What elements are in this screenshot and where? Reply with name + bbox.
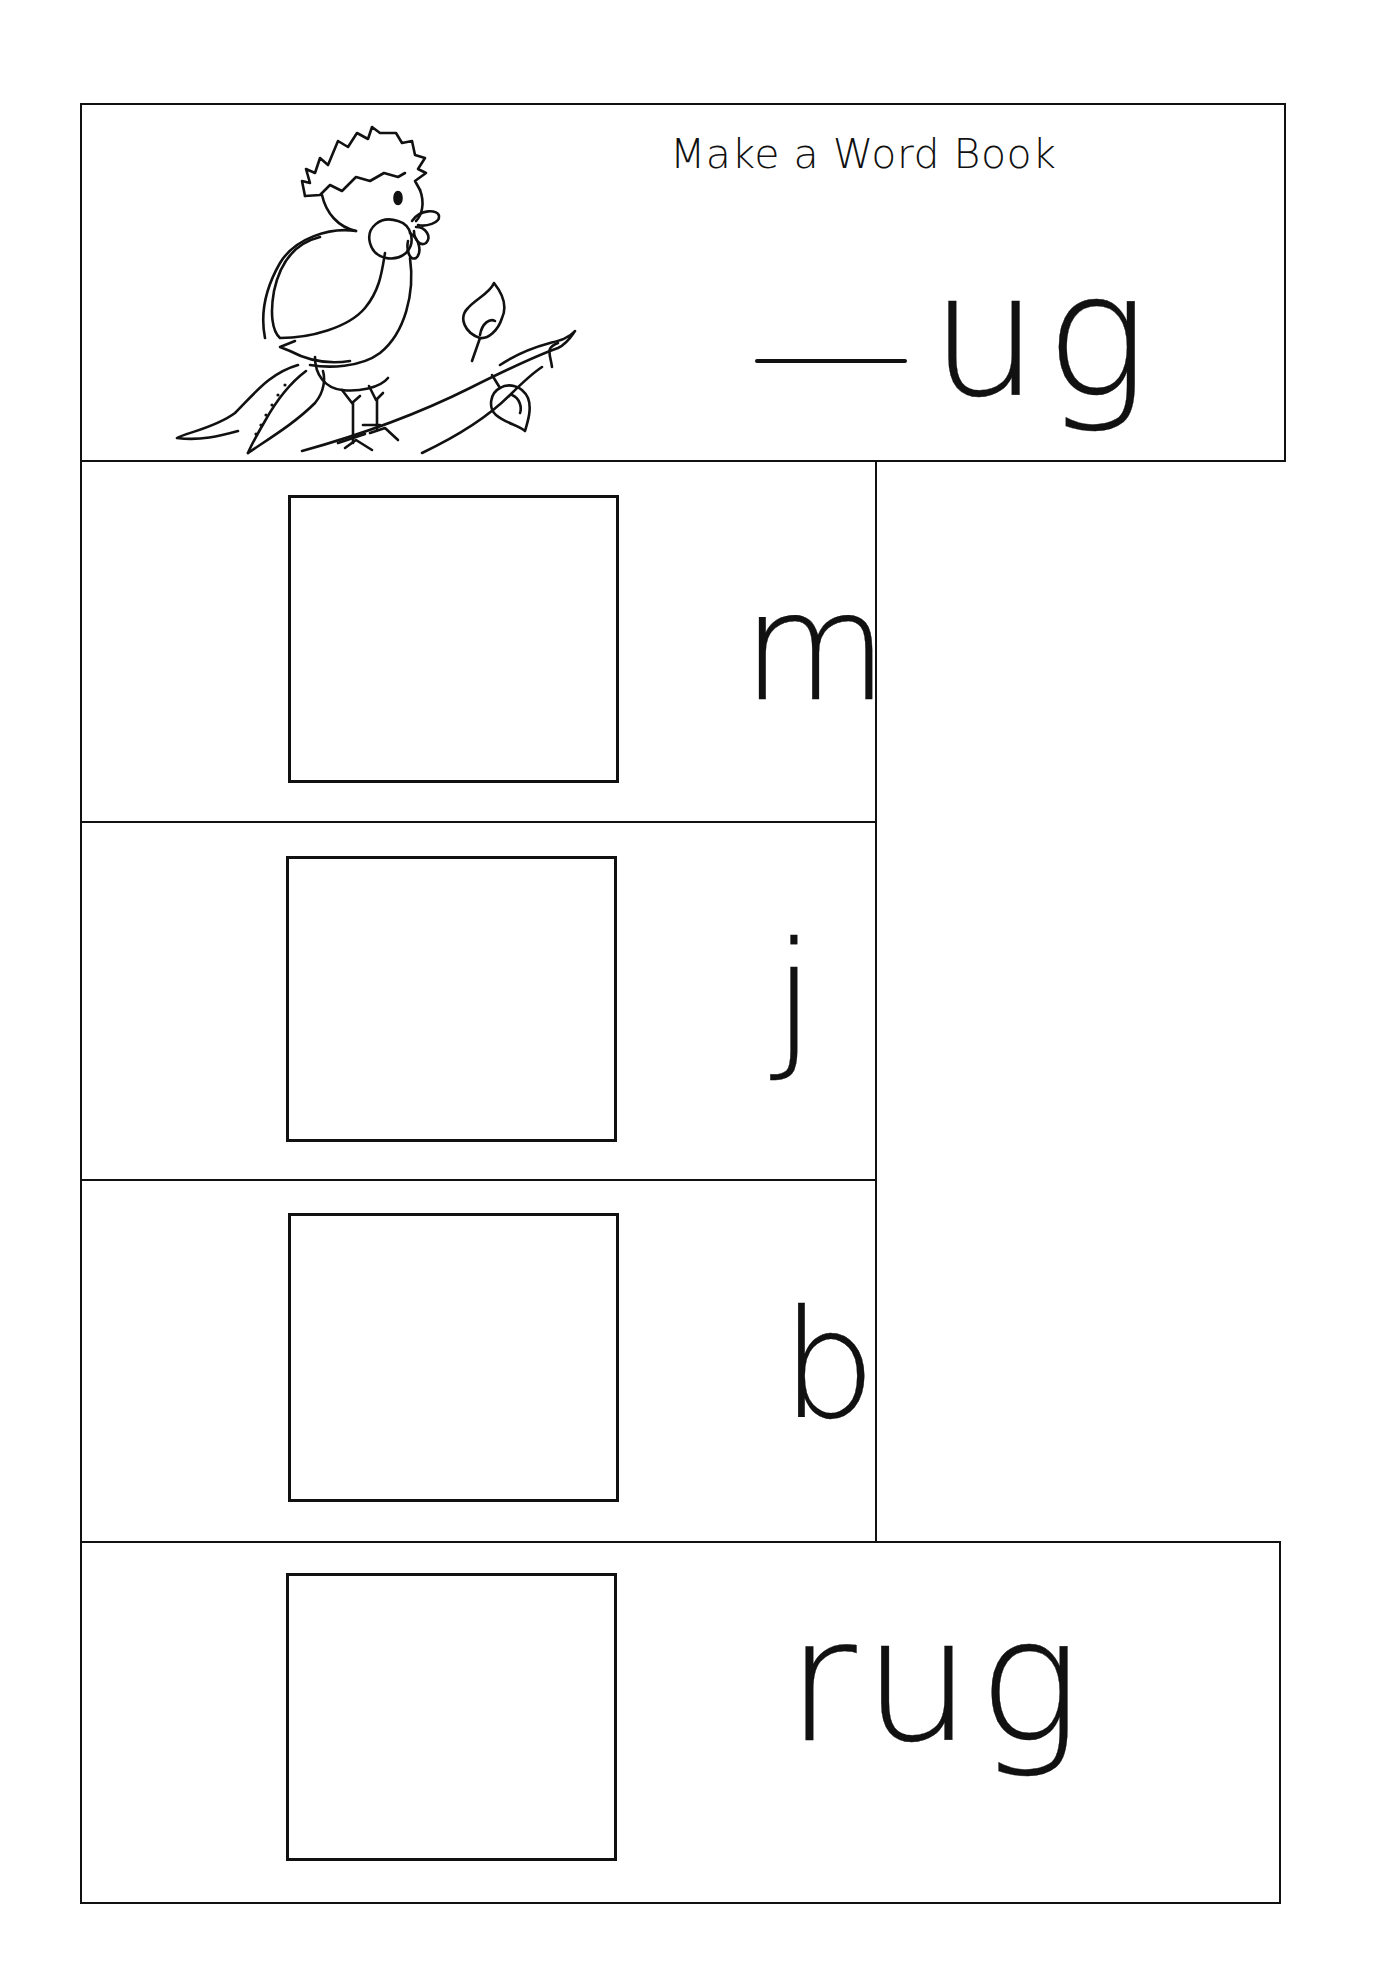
picture-box-2[interactable]: [286, 856, 617, 1142]
letter-m: m: [742, 572, 888, 722]
picture-box-4[interactable]: [286, 1573, 617, 1861]
letter-b: b: [781, 1290, 876, 1440]
picture-box-3[interactable]: [288, 1213, 619, 1502]
word-family-ending: ug: [930, 250, 1154, 422]
word-rug: rug: [786, 1595, 1087, 1767]
blank-line: [755, 359, 907, 363]
bird-on-branch-icon: [80, 103, 600, 461]
letter-j: j: [773, 922, 815, 1072]
page-title: Make a Word Book: [670, 130, 1056, 178]
picture-box-1[interactable]: [288, 495, 619, 783]
page-row-4: [80, 1541, 1281, 1904]
